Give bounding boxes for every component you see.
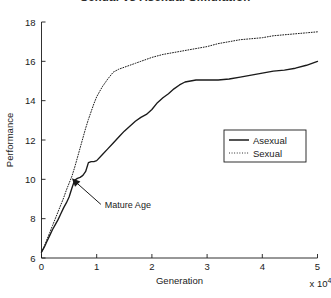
x-tick-label: 0 xyxy=(39,261,44,272)
legend-label-sexual[interactable]: Sexual xyxy=(253,148,282,159)
x-axis-exponent: x 104 xyxy=(310,277,331,289)
figure-canvas: Sexual vs Asexual Simulation 68101214161… xyxy=(0,0,331,298)
y-axis-label: Performance xyxy=(4,113,15,167)
x-axis-label: Generation xyxy=(156,275,203,286)
y-tick-label: 8 xyxy=(30,213,35,224)
annotation-layer: Mature Age xyxy=(72,178,151,210)
y-tick-label: 14 xyxy=(25,95,36,106)
x-tick-label: 4 xyxy=(260,261,265,272)
annotation-label: Mature Age xyxy=(105,200,151,210)
y-tick-label: 12 xyxy=(25,135,36,146)
x-tick-label: 5 xyxy=(315,261,320,272)
legend-label-asexual[interactable]: Asexual xyxy=(253,135,287,146)
annotation-arrow-line xyxy=(74,181,101,205)
y-tick-label: 18 xyxy=(25,17,36,28)
x-tick-label: 1 xyxy=(94,261,99,272)
y-tick-label: 16 xyxy=(25,56,36,67)
plot-area: 681012141618012345GenerationPerformancex… xyxy=(0,0,331,298)
legend[interactable]: AsexualSexual xyxy=(224,130,306,162)
y-tick-label: 6 xyxy=(30,253,35,264)
x-tick-label: 2 xyxy=(149,261,154,272)
x-tick-label: 3 xyxy=(204,261,209,272)
y-tick-label: 10 xyxy=(25,174,36,185)
